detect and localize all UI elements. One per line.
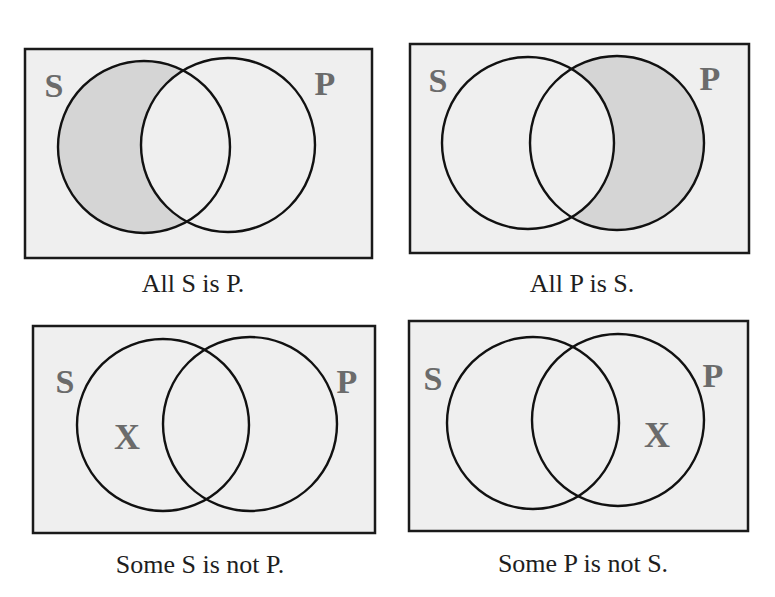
- caption: All P is S.: [530, 269, 635, 298]
- universe-box: [409, 321, 748, 531]
- label-p: P: [315, 65, 336, 102]
- x-mark-p-only: X: [644, 415, 670, 455]
- x-mark-s-only: X: [114, 417, 140, 457]
- label-s: S: [45, 67, 64, 104]
- panel-some-s-is-not-p: S P X Some S is not P.: [33, 326, 375, 579]
- label-s: S: [429, 62, 448, 99]
- label-p: P: [703, 357, 724, 394]
- caption: All S is P.: [142, 269, 245, 298]
- caption: Some S is not P.: [116, 550, 284, 579]
- label-s: S: [56, 363, 75, 400]
- venn-diagram-grid: S P All S is P. S P All P is S. S P X So…: [0, 0, 775, 597]
- label-s: S: [424, 360, 443, 397]
- label-p: P: [337, 363, 358, 400]
- label-p: P: [700, 60, 721, 97]
- panel-all-p-is-s: S P All P is S.: [410, 44, 749, 298]
- caption: Some P is not S.: [498, 549, 668, 578]
- panel-some-p-is-not-s: S P X Some P is not S.: [409, 321, 748, 578]
- panel-all-s-is-p: S P All S is P.: [25, 49, 372, 298]
